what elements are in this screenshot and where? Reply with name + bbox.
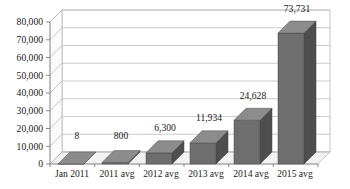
y-tick-label: 50,000 [17,70,44,81]
bar-group[interactable] [278,21,316,164]
y-tick-label: 30,000 [17,105,44,116]
x-tick-label: 2013 avg [188,168,224,179]
chart-container: 80,000 70,000 60,000 50,000 40,000 30,00… [0,0,350,189]
bar-group[interactable] [234,108,272,164]
x-axis-tick-labels: Jan 2011 2011 avg 2012 avg 2013 avg 2014… [55,168,313,179]
y-tick-label: 10,000 [17,141,44,152]
data-label: 800 [114,130,129,141]
data-label: 8 [75,130,80,141]
x-axis-ticks [50,164,318,167]
data-label: 24,628 [240,90,267,101]
y-tick-label: 20,000 [17,123,44,134]
x-tick-label: Jan 2011 [55,168,89,179]
y-axis-ticks [46,22,50,164]
x-tick-label: 2012 avg [143,168,179,179]
x-tick-label: 2015 avg [277,168,313,179]
data-label: 11,934 [196,112,222,123]
x-tick-label: 2014 avg [233,168,269,179]
y-axis-tick-labels: 80,000 70,000 60,000 50,000 40,000 30,00… [17,16,44,169]
bar-chart-3d: 80,000 70,000 60,000 50,000 40,000 30,00… [0,0,350,189]
y-tick-label: 0 [38,158,43,169]
x-tick-label: 2011 avg [99,168,134,179]
y-tick-label: 80,000 [17,16,44,27]
y-tick-label: 70,000 [17,34,44,45]
y-tick-label: 60,000 [17,52,44,63]
data-label: 73,731 [284,3,311,14]
y-tick-label: 40,000 [17,87,44,98]
data-label: 6,300 [154,122,176,133]
